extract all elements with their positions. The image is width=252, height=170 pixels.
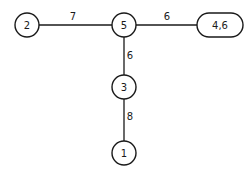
node-4-6-label: 4,6: [212, 20, 228, 31]
node-5: 5: [112, 13, 136, 37]
node-1-label: 1: [121, 148, 127, 159]
node-3-label: 3: [121, 82, 127, 93]
node-2: 2: [15, 13, 39, 37]
node-4-6: 4,6: [197, 13, 243, 37]
node-2-label: 2: [24, 20, 30, 31]
edge-weight-2-5: 7: [70, 11, 76, 22]
node-5-label: 5: [121, 20, 127, 31]
edge-weight-5-3: 6: [127, 50, 133, 61]
node-1: 1: [112, 141, 136, 165]
edge-weight-3-1: 8: [127, 111, 133, 122]
node-3: 3: [112, 75, 136, 99]
edge-weight-5-46: 6: [164, 11, 170, 22]
tree-diagram: 7 6 6 8 2 5 4,6 3 1: [0, 0, 252, 170]
